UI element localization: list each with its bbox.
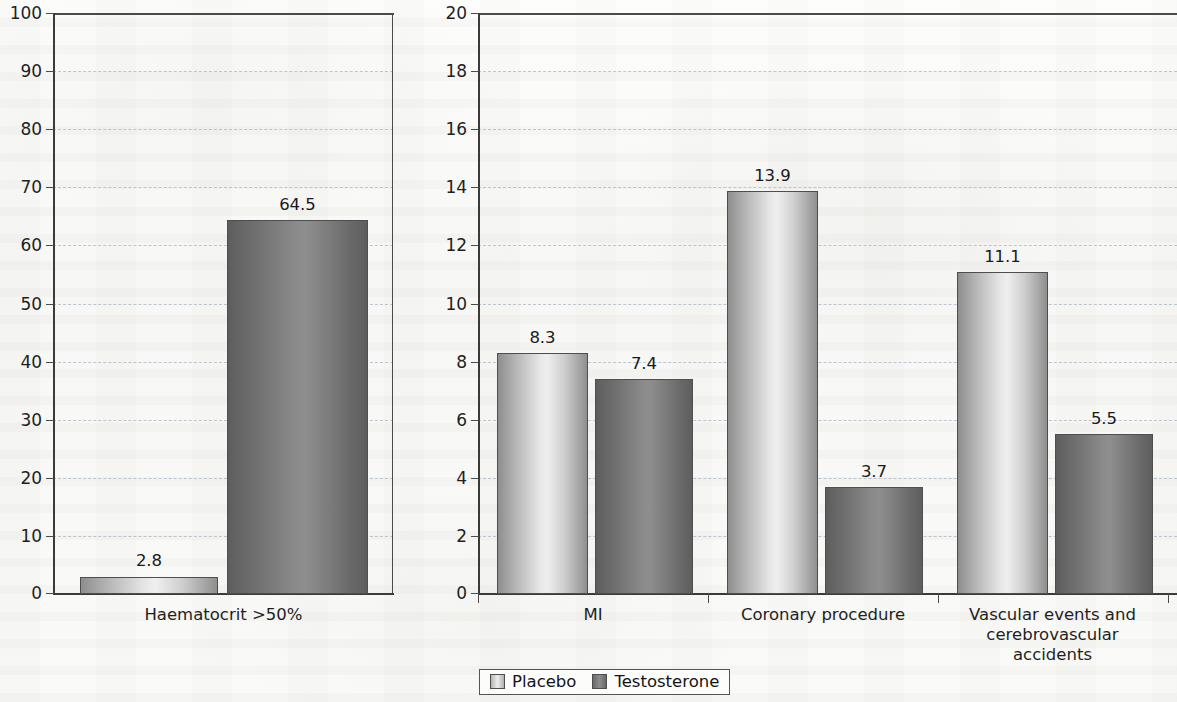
y-tick (471, 245, 479, 246)
bar-testosterone-coronary-procedure (825, 487, 923, 594)
y-axis-tick-label: 20 (0, 470, 42, 487)
bar-testosterone-vascular-events (1055, 434, 1153, 594)
gridline (478, 71, 1177, 72)
y-tick (46, 71, 54, 72)
y-axis-tick-label: 20 (430, 5, 467, 22)
gridline (53, 129, 393, 130)
y-axis-tick-label: 50 (0, 296, 42, 313)
bar-value-label: 2.8 (80, 552, 218, 569)
gridline (53, 71, 393, 72)
bar-placebo-mi (497, 353, 588, 594)
bar-placebo-vascular-events (957, 272, 1048, 594)
gridline (53, 187, 393, 188)
bar-value-label: 13.9 (727, 167, 818, 184)
y-tick (46, 362, 54, 363)
bar-value-label: 8.3 (497, 329, 588, 346)
y-tick (46, 304, 54, 305)
bar-placebo-haematocrit (80, 577, 218, 594)
x-tick (478, 594, 479, 603)
y-tick (471, 362, 479, 363)
bar-value-label: 64.5 (227, 196, 368, 213)
bar-placebo-coronary-procedure (727, 191, 818, 594)
y-axis-tick-label: 80 (0, 121, 42, 138)
legend-entry-placebo: Placebo (490, 673, 576, 690)
y-axis-tick-label: 60 (0, 237, 42, 254)
legend-label-placebo: Placebo (512, 673, 576, 690)
gridline (478, 187, 1177, 188)
x-category-label-coronary-procedure: Coronary procedure (708, 605, 938, 625)
bar-value-label: 3.7 (825, 463, 923, 480)
y-tick (471, 420, 479, 421)
y-axis-tick-label: 0 (430, 585, 467, 602)
gridline (478, 129, 1177, 130)
y-axis-tick-label: 0 (0, 585, 42, 602)
y-axis-tick-label: 2 (430, 528, 467, 545)
y-axis-tick-label: 18 (430, 63, 467, 80)
y-tick (471, 129, 479, 130)
figure-root: 100 90 80 70 60 50 40 30 20 10 0 2.8 64.… (0, 0, 1177, 702)
y-axis-tick-label: 12 (430, 237, 467, 254)
y-axis-tick-label: 14 (430, 179, 467, 196)
x-tick (708, 594, 709, 603)
legend-entry-testosterone: Testosterone (592, 673, 719, 690)
legend-label-testosterone: Testosterone (614, 673, 719, 690)
x-tick (938, 594, 939, 603)
y-axis-tick-label: 70 (0, 179, 42, 196)
gridline (478, 304, 1177, 305)
y-axis-tick-label: 100 (0, 5, 42, 22)
y-axis-tick-label: 40 (0, 354, 42, 371)
legend-swatch-icon-placebo (490, 674, 505, 689)
x-category-label-mi: MI (478, 605, 708, 625)
x-category-label-haematocrit: Haematocrit >50% (53, 605, 394, 625)
y-tick (46, 536, 54, 537)
y-axis-tick-label: 16 (430, 121, 467, 138)
x-tick (1168, 594, 1169, 603)
bar-value-label: 7.4 (595, 355, 693, 372)
y-axis-tick-label: 8 (430, 354, 467, 371)
y-tick (46, 129, 54, 130)
y-tick (46, 478, 54, 479)
y-tick (471, 304, 479, 305)
y-axis-tick-label: 4 (430, 470, 467, 487)
bar-value-label: 5.5 (1055, 410, 1153, 427)
y-tick (46, 187, 54, 188)
y-axis-tick-label: 90 (0, 63, 42, 80)
y-tick (46, 13, 54, 14)
y-tick (471, 71, 479, 72)
y-tick (471, 13, 479, 14)
bar-testosterone-haematocrit (227, 220, 368, 594)
plot-frame-top (53, 13, 394, 15)
y-tick (46, 420, 54, 421)
y-axis-tick-label: 30 (0, 412, 42, 429)
chart-legend: Placebo Testosterone (479, 669, 730, 695)
y-axis-tick-label: 10 (430, 296, 467, 313)
gridline (478, 245, 1177, 246)
y-tick (46, 593, 54, 594)
legend-swatch-icon-testosterone (592, 674, 607, 689)
x-category-label-vascular-events: Vascular events and cerebrovascular acci… (930, 605, 1175, 665)
y-axis-tick-label: 6 (430, 412, 467, 429)
y-tick (46, 245, 54, 246)
plot-frame-top (478, 13, 1177, 15)
y-tick (471, 478, 479, 479)
y-tick (471, 536, 479, 537)
plot-frame-right (392, 13, 393, 595)
bar-value-label: 11.1 (957, 248, 1048, 265)
y-axis-tick-label: 10 (0, 528, 42, 545)
y-tick (471, 187, 479, 188)
right-bar-chart-panel: 20 18 16 14 12 10 8 6 4 2 0 8.3 7.4 MI 1… (430, 0, 1177, 702)
bar-testosterone-mi (595, 379, 693, 594)
left-bar-chart-panel: 100 90 80 70 60 50 40 30 20 10 0 2.8 64.… (0, 0, 430, 702)
